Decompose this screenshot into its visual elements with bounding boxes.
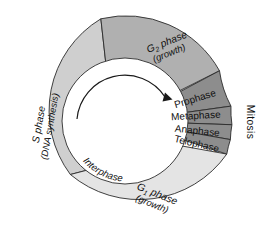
cell-cycle-svg: G2 phase (growth) S phase (DNA synthesis… bbox=[0, 0, 270, 243]
cell-cycle-figure: G2 phase (growth) S phase (DNA synthesis… bbox=[0, 0, 270, 243]
label-mitosis: Mitosis bbox=[245, 105, 256, 140]
interphase-inner-circle bbox=[62, 58, 188, 184]
mitosis-text: Mitosis bbox=[245, 105, 256, 140]
ring-sectors bbox=[49, 16, 232, 200]
